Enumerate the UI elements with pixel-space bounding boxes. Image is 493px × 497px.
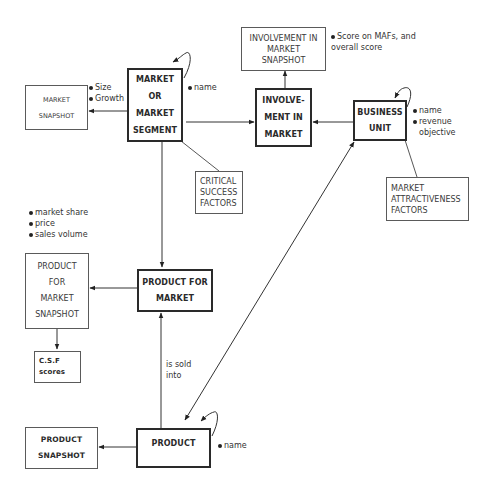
entity-label-line: C.S.F: [39, 356, 60, 367]
bullet-icon: [331, 35, 335, 39]
entity-label-line: SNAPSHOT: [39, 108, 74, 124]
attributes-product: name: [218, 440, 247, 451]
entity-label-line: PRODUCT: [152, 439, 196, 448]
entity-label-line: FACTORS: [200, 198, 237, 209]
entity-product: PRODUCT: [136, 428, 211, 468]
entity-label-line: BUSINESS: [357, 105, 402, 121]
entity-label-line: PRODUCT: [41, 432, 82, 448]
attribute-item: Score on MAFs, and: [331, 31, 416, 42]
entity-label-line: PRODUCT: [37, 259, 76, 275]
entity-involvement-in-market: INVOLVE- MENT IN MARKET: [255, 88, 312, 147]
attributes-market-segment: name: [188, 82, 217, 93]
entity-label-line: FOR: [49, 275, 65, 291]
entity-label-line: SNAPSHOT: [262, 55, 306, 66]
attribute-item: price: [29, 218, 88, 229]
entity-product-for-market: PRODUCT FOR MARKET: [137, 269, 213, 312]
entity-product-snapshot: PRODUCT SNAPSHOT: [25, 427, 98, 469]
attribute-item: name: [413, 105, 456, 116]
entity-label-line: INVOLVEMENT IN: [250, 33, 318, 44]
entity-label-line: PRODUCT FOR: [142, 275, 208, 291]
entity-label-line: SNAPSHOT: [38, 448, 85, 464]
attribute-item: revenue: [413, 116, 456, 127]
entity-label-line: SNAPSHOT: [35, 307, 79, 323]
entity-label-line: MARKET: [267, 44, 300, 55]
entity-involvement-snapshot: INVOLVEMENT IN MARKET SNAPSHOT: [241, 27, 326, 71]
attribute-item: name: [218, 440, 247, 451]
entity-market-segment: MARKET OR MARKET SEGMENT: [127, 68, 183, 142]
entity-label-line: MARKET: [43, 92, 70, 108]
bullet-icon: [413, 120, 417, 124]
entity-label-line: MARKET: [264, 126, 302, 143]
entity-market-attractiveness-factors: MARKET ATTRACTIVENESS FACTORS: [386, 177, 469, 221]
bullet-icon: [218, 444, 222, 448]
entity-label-line: MARKET: [391, 183, 424, 194]
bullet-icon: [89, 86, 93, 90]
entity-product-for-market-snapshot: PRODUCT FOR MARKET SNAPSHOT: [25, 253, 89, 329]
entity-label-line: MENT IN: [264, 109, 303, 126]
attributes-product-for-market-snapshot: market share price sales volume: [29, 207, 88, 240]
entity-business-unit: BUSINESS UNIT: [353, 100, 407, 141]
bullet-icon: [89, 97, 93, 101]
attribute-item: market share: [29, 207, 88, 218]
attribute-item: name: [188, 82, 217, 93]
bullet-icon: [188, 86, 192, 90]
attributes-market-snapshot: Size Growth: [89, 82, 124, 104]
edge-segment-to-csf: [181, 141, 219, 171]
attribute-item: Growth: [89, 93, 124, 104]
entity-label-line: UNIT: [369, 121, 391, 137]
data-model-diagram: MARKET OR MARKET SEGMENT INVOLVE- MENT I…: [0, 0, 493, 497]
entity-label-line: FACTORS: [391, 205, 428, 216]
bullet-icon: [29, 233, 33, 237]
edge-business-unit-to-maf: [405, 140, 417, 177]
entity-label-line: ATTRACTIVENESS: [391, 194, 461, 205]
attributes-involvement-snapshot: Score on MAFs, and overall score: [331, 31, 416, 53]
bullet-icon: [413, 109, 417, 113]
entity-label-line: SUCCESS: [200, 187, 237, 198]
entity-label-line: scores: [39, 367, 65, 378]
entity-label-line: MARKET: [156, 291, 194, 307]
entity-label-line: INVOLVE-: [262, 92, 304, 109]
entity-label-line: CRITICAL: [200, 176, 236, 187]
attributes-business-unit: name revenue objective: [413, 105, 456, 138]
attribute-item: Size: [89, 82, 124, 93]
relationship-label-is-sold-into: is sold into: [166, 359, 191, 381]
edges-layer: [0, 0, 493, 497]
bullet-icon: [29, 211, 33, 215]
entity-label-line: MARKET: [136, 105, 174, 122]
attribute-item: sales volume: [29, 229, 88, 240]
entity-critical-success-factors: CRITICAL SUCCESS FACTORS: [195, 171, 243, 214]
entity-label-line: SEGMENT: [133, 122, 177, 139]
bullet-icon: [29, 222, 33, 226]
entity-label-line: MARKET: [136, 71, 174, 88]
entity-csf-scores: C.S.F scores: [34, 351, 81, 383]
entity-market-snapshot: MARKET SNAPSHOT: [25, 85, 88, 130]
entity-label-line: MARKET: [40, 291, 73, 307]
attribute-item-continued: overall score: [331, 42, 416, 53]
entity-label-line: OR: [148, 88, 161, 105]
attribute-item-continued: objective: [413, 127, 456, 138]
